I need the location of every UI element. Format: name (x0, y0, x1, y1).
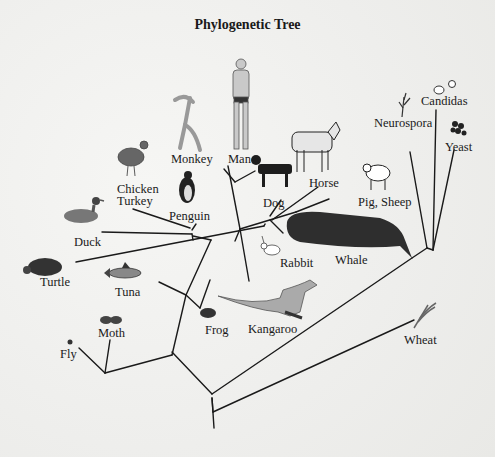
label-monkey: Monkey (171, 153, 213, 165)
moth-icon (100, 316, 122, 324)
whale-icon (287, 212, 412, 258)
label-turkey: Turkey (117, 195, 153, 207)
label-kangaroo: Kangaroo (248, 323, 297, 335)
sheep-icon (363, 164, 390, 190)
label-moth: Moth (98, 327, 125, 339)
chicken-icon (118, 141, 148, 176)
label-tuna: Tuna (115, 286, 140, 298)
label-pig-sheep: Pig, Sheep (358, 196, 411, 208)
penguin-icon (179, 171, 195, 203)
kangaroo-icon (218, 280, 317, 318)
yeast-icon (451, 121, 467, 136)
diagram-canvas: Phylogenetic Tree (0, 0, 495, 457)
label-turtle: Turtle (40, 276, 70, 288)
horse-icon (292, 122, 340, 172)
fly-icon (68, 340, 73, 345)
duck-icon (64, 197, 104, 223)
monkey-icon (175, 97, 200, 150)
turtle-icon (23, 258, 62, 276)
label-penguin: Penguin (169, 210, 210, 222)
candidas-icon (434, 81, 456, 95)
label-duck: Duck (74, 236, 101, 248)
label-frog: Frog (205, 324, 229, 336)
label-horse: Horse (309, 177, 339, 189)
frog-icon (200, 308, 216, 318)
tree-svg (0, 0, 495, 457)
label-candidas: Candidas (421, 95, 468, 107)
label-whale: Whale (335, 254, 368, 266)
label-wheat: Wheat (404, 334, 437, 346)
label-yeast: Yeast (445, 141, 472, 153)
wheat-icon (414, 303, 436, 328)
dog-icon (251, 155, 292, 187)
man-icon (233, 59, 249, 149)
label-neurospora: Neurospora (374, 117, 432, 129)
tuna-icon (104, 262, 141, 278)
label-fly: Fly (60, 348, 77, 360)
neurospora-icon (399, 93, 410, 117)
label-rabbit: Rabbit (280, 257, 313, 269)
label-man: Man (228, 153, 251, 165)
rabbit-icon (261, 236, 280, 255)
label-dog: Dog (263, 197, 285, 209)
